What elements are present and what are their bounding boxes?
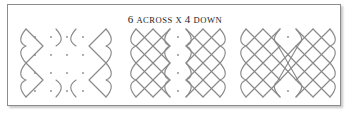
inner-arcs-stage-1 [56, 29, 76, 97]
kolam-svg-stage-2 [126, 27, 230, 101]
left-block-weave-stage-2 [131, 29, 170, 97]
panel-stage-1 [18, 27, 118, 101]
panel-stage-3 [236, 27, 340, 101]
figure-frame: 6 ACROSS X 4 DOWN [7, 4, 341, 106]
right-edge-loop-stage-1 [89, 29, 111, 97]
right-block-weave-stage-2 [186, 29, 225, 97]
left-block-weave-stage-3 [241, 29, 280, 97]
caption-across-word: ACROSS [136, 15, 172, 25]
kolam-svg-stage-3 [236, 27, 340, 101]
dot-grid-stage-2 [177, 36, 179, 92]
caption-down-label: DOWN [193, 15, 222, 25]
figure-caption: 6 ACROSS X 4 DOWN [8, 13, 342, 25]
kolam-construction-figure: 6 ACROSS X 4 DOWN [0, 0, 348, 121]
left-edge-loop-stage-1 [21, 29, 43, 97]
panel-row [8, 27, 342, 101]
kolam-svg-stage-1 [18, 27, 118, 101]
right-block-weave-stage-3 [296, 29, 335, 97]
panel-stage-2 [126, 27, 230, 101]
